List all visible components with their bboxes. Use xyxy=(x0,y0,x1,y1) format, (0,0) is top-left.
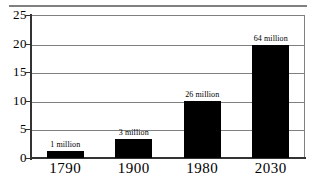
bar-1900[interactable] xyxy=(115,139,152,158)
y-axis-label-20: 20 xyxy=(3,37,27,50)
bar-1790[interactable] xyxy=(47,151,84,158)
bar-value-label-1980: 26 million xyxy=(162,91,242,99)
y-axis-label-10: 10 xyxy=(3,94,27,107)
bar-chart-figure: 0510152025 1 million3 million26 million6… xyxy=(0,0,317,183)
bar-2030[interactable] xyxy=(252,45,289,158)
bar-value-label-1900: 3 million xyxy=(94,129,174,137)
y-tick-15 xyxy=(25,72,31,73)
y-axis-label-5: 5 xyxy=(3,122,27,135)
bar-1980[interactable] xyxy=(184,101,221,158)
x-axis-label-2030: 2030 xyxy=(231,160,311,176)
bars-layer: 1 million3 million26 million64 million xyxy=(31,15,305,158)
top-horizontal-rule xyxy=(9,5,307,7)
y-axis-label-0: 0 xyxy=(3,151,27,164)
bar-value-label-2030: 64 million xyxy=(231,35,311,43)
y-tick-5 xyxy=(25,129,31,130)
y-axis-label-25: 25 xyxy=(3,8,27,21)
y-tick-20 xyxy=(25,44,31,45)
y-axis-tick-labels: 0510152025 xyxy=(0,0,27,183)
bar-value-label-1790: 1 million xyxy=(25,141,105,149)
y-axis-label-15: 15 xyxy=(3,65,27,78)
y-tick-10 xyxy=(25,101,31,102)
y-tick-0 xyxy=(25,158,31,159)
y-tick-25 xyxy=(25,15,31,16)
